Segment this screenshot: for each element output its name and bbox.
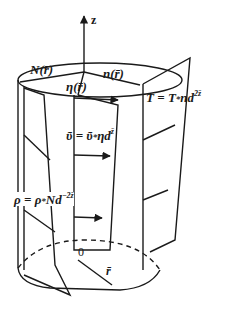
equation-rho: ρ = ρ*Nd−2z̄ <box>14 192 74 206</box>
label-N-r: N(r̄) <box>30 63 53 76</box>
label-eta-r: η(r̄) <box>66 80 87 93</box>
radius-label: r̄ <box>106 265 111 277</box>
origin-label: 0 <box>78 246 84 258</box>
label-n-r: n(r̄) <box>103 67 124 80</box>
bottom-ellipse-front <box>18 268 160 290</box>
equation-T: T = T*nd2z̄ <box>146 90 201 104</box>
cylinder-diagram <box>0 0 228 314</box>
equation-upsilon: ῦ = ῦ*ηdz̄ <box>66 128 114 142</box>
z-axis-label: z <box>91 14 96 26</box>
bottom-ellipse-back <box>18 240 160 270</box>
